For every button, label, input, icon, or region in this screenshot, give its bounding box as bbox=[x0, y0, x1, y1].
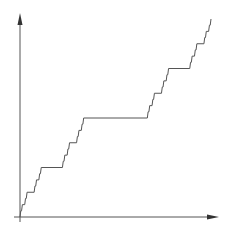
background bbox=[0, 0, 229, 229]
cantor-function-diagram bbox=[0, 0, 229, 229]
